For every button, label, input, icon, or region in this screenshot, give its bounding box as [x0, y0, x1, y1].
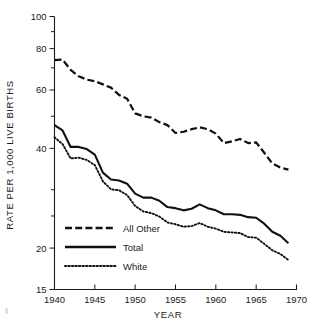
x-tick-label: 1965 — [246, 294, 267, 305]
chart-canvas: RATE PER 1,000 LIVE BIRTHS YEAR 10080604… — [0, 0, 318, 322]
x-tick-label: 1960 — [205, 294, 226, 305]
scan-artifact — [5, 308, 8, 314]
x-tick-label: 1940 — [44, 294, 65, 305]
x-axis-ticks: 1940194519501955196019651970 — [44, 285, 307, 305]
x-axis-title: YEAR — [154, 309, 182, 320]
legend-label-total: Total — [123, 242, 143, 253]
data-series-group — [55, 60, 289, 260]
y-tick-label: 20 — [36, 243, 47, 254]
y-tick-label: 80 — [36, 43, 47, 54]
legend-label-all-other: All Other — [123, 223, 160, 234]
x-tick-label: 1955 — [165, 294, 186, 305]
series-line-total — [55, 125, 289, 243]
chart-legend: All OtherTotalWhite — [65, 223, 160, 272]
x-tick-label: 1970 — [286, 294, 307, 305]
x-tick-label: 1945 — [84, 294, 105, 305]
y-axis-title: RATE PER 1,000 LIVE BIRTHS — [4, 80, 15, 229]
y-tick-label: 100 — [31, 11, 47, 22]
x-tick-label: 1950 — [125, 294, 146, 305]
y-tick-label: 60 — [36, 84, 47, 95]
legend-label-white: White — [123, 261, 147, 272]
infant-mortality-chart: RATE PER 1,000 LIVE BIRTHS YEAR 10080604… — [0, 0, 318, 322]
series-line-white — [55, 137, 289, 260]
series-line-all-other — [55, 60, 289, 170]
y-axis-ticks: 1008060402015 — [31, 11, 55, 295]
y-tick-label: 40 — [36, 143, 47, 154]
